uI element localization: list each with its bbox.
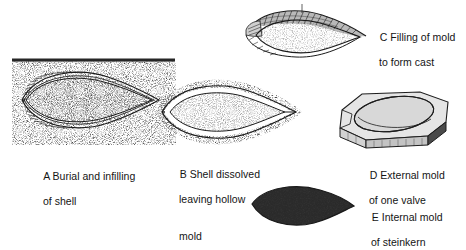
panel-b-illustration [152,72,302,154]
panel-d-caption-line1: D External mold [370,169,445,181]
panel-d-illustration [328,88,460,154]
panel-e-caption: E Internal mold of steinkern [360,198,466,250]
panel-b-drawing [152,72,302,154]
sediment-surface-line [12,59,175,63]
panel-e-caption-line2: of steinkern [360,236,466,249]
panel-c-caption: C Filling of mold to form cast [368,18,466,93]
figure-canvas: A Burial and infilling of shell [0,0,466,239]
panel-b-caption-line1: B Shell dissolved [180,168,260,180]
panel-e-drawing [246,182,356,234]
panel-a-caption-line1: A Burial and infilling [43,170,135,182]
panel-c-caption-line2: to form cast [368,56,466,69]
panel-e-illustration [246,182,356,234]
panel-e-caption-line1: E Internal mold [372,211,443,223]
panel-c-drawing [240,4,368,62]
panel-c-caption-line1: C Filling of mold [380,31,456,43]
panel-c-illustration [240,4,368,62]
steinkern-fill [246,182,356,234]
panel-d-drawing [328,88,460,154]
